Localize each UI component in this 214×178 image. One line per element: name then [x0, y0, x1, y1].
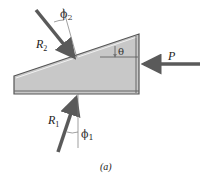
phi2-label: ϕ2: [60, 8, 73, 22]
phi1-label: ϕ1: [81, 128, 94, 142]
r2-label: R2: [35, 37, 47, 53]
theta-label: θ: [118, 46, 124, 57]
wedge: [14, 34, 139, 94]
r1-label: R1: [47, 113, 59, 129]
p-label: P: [167, 49, 176, 63]
figure-caption: (a): [100, 161, 112, 173]
force-r1-arrow: [58, 94, 78, 152]
wedge-force-diagram: ϕ2 R2 θ P R1 ϕ1 (a): [0, 0, 214, 178]
